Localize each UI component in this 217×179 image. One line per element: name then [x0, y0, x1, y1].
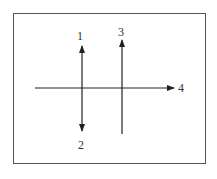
label-3: 3 [118, 26, 124, 38]
label-1: 1 [77, 30, 83, 42]
label-2: 2 [78, 139, 84, 151]
arrow-diagram [0, 0, 217, 179]
label-4: 4 [178, 82, 184, 94]
